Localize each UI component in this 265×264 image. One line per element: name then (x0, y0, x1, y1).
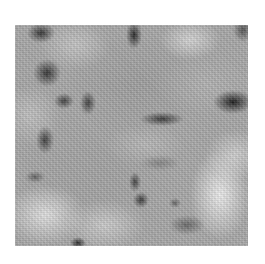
grayscale-texture-image (15, 25, 248, 246)
image-canvas: grayscale mottled texture (0, 0, 265, 264)
texture-grain-overlay (15, 25, 248, 246)
